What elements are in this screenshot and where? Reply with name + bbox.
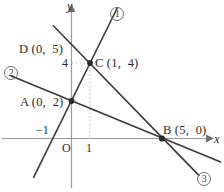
point-label-d: D (0, 5) (19, 43, 63, 56)
line-2 (11, 76, 220, 162)
line-1 (34, 8, 118, 178)
point-c-marker (87, 60, 93, 66)
point-label-b: B (5, 0) (163, 124, 206, 137)
line-label-1: 1 (110, 7, 124, 21)
line-label-3: 3 (197, 172, 211, 186)
tick-label-x-1: 1 (86, 142, 92, 154)
marked-points (69, 60, 165, 141)
y-axis-label: y (67, 0, 73, 13)
guide-lines (72, 63, 90, 138)
line-3 (53, 26, 199, 176)
point-a-marker (69, 98, 75, 104)
x-axis-label: x (214, 133, 220, 146)
x-axis-arrowhead (206, 135, 214, 143)
point-label-a: A (0, 2) (20, 96, 63, 109)
point-label-c: C (1, 4) (95, 57, 138, 70)
coordinate-plane-figure: D (0, 5) C (1, 4) A (0, 2) B (5, 0) 4 −1… (0, 0, 224, 192)
origin-label: O (62, 142, 71, 154)
tick-label-x-negative-1: −1 (36, 124, 49, 136)
line-label-2: 2 (4, 66, 18, 80)
tick-label-y-4: 4 (62, 57, 68, 69)
